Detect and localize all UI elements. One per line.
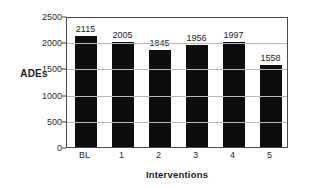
bar [75, 36, 97, 147]
bar-value-label: 2005 [112, 30, 132, 40]
x-axis-tick-label: 4 [230, 150, 235, 160]
y-axis-tick-label: 2000 [42, 38, 62, 48]
x-axis-tick-label: 3 [193, 150, 198, 160]
y-axis-tick-label: 1500 [42, 64, 62, 74]
bar-value-label: 1997 [223, 30, 243, 40]
bar-chart: ADEs 05001000150020002500 21152005184519… [0, 0, 310, 189]
bar [260, 65, 282, 147]
bar [112, 42, 134, 147]
bar-group: 1997 [215, 18, 252, 147]
x-axis-tick-label: 5 [267, 150, 272, 160]
plot-area: 211520051845195619971558 [66, 17, 288, 148]
gridline [67, 122, 287, 123]
y-axis-tick-label: 500 [47, 117, 62, 127]
bar-group: 2115 [67, 18, 104, 147]
gridline [67, 69, 287, 70]
bar-group: 1845 [141, 18, 178, 147]
bar-group: 2005 [104, 18, 141, 147]
x-axis-tick-labels: BL12345 [66, 150, 288, 164]
x-axis-tick-label: BL [79, 150, 90, 160]
bar-group: 1558 [252, 18, 289, 147]
x-axis-tick-label: 2 [156, 150, 161, 160]
bar-group: 1956 [178, 18, 215, 147]
x-axis-title: Interventions [66, 169, 288, 180]
y-axis-tick-label: 2500 [42, 12, 62, 22]
y-axis-tick-label: 1000 [42, 91, 62, 101]
y-axis-tick-labels: 05001000150020002500 [20, 0, 62, 189]
bar-value-label: 2115 [76, 24, 95, 34]
gridline [67, 96, 287, 97]
bar-value-label: 1558 [260, 53, 280, 63]
gridline [67, 43, 287, 44]
bar [149, 50, 171, 147]
bar-series: 211520051845195619971558 [67, 18, 287, 147]
bar-value-label: 1956 [186, 33, 206, 43]
x-axis-tick-label: 1 [119, 150, 124, 160]
